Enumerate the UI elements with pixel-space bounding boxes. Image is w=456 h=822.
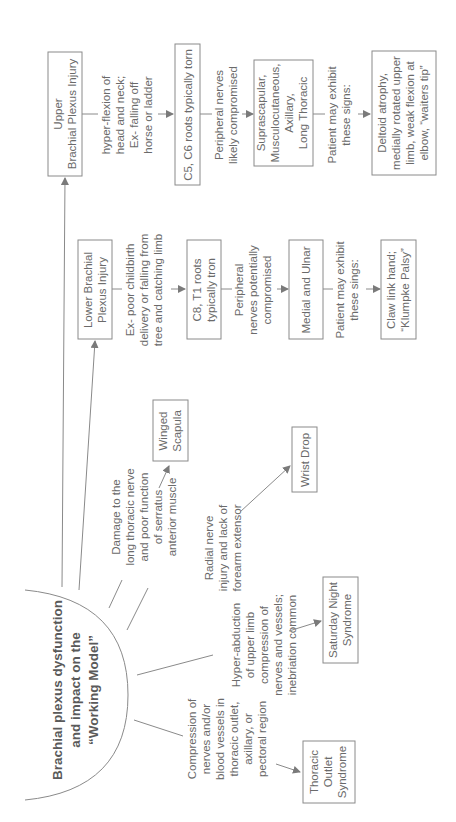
saturday-cause-line-3: compression of [258,605,270,684]
upper-signs-line-2: medially rotated upper [390,56,402,170]
winged-result-line-1: Winged [157,412,169,451]
saturday-night-branch: Hyper-abduction of upper limb compressio… [230,577,358,696]
winged-cause-line-4: of serratus [152,490,164,545]
winged-scapula-branch: Damage to the long thoracic nerve and po… [110,400,188,566]
connector-winged [109,580,122,608]
thoracic-cause-line-6: pectoral region [256,701,268,777]
winged-cause-line-5: anterior muscle [166,478,178,557]
thoracic-result-line-2: Outlet [322,756,334,787]
lower-nerves-label-line-3: compromised [261,255,273,324]
upper-nerves-label-line-2: likely compromised [227,66,239,164]
saturday-cause-line-5: inebriation common [286,595,298,695]
brachial-plexus-diagram: Brachial plexus dysfunction and impact o… [0,0,456,822]
winged-cause-line-1: Damage to the [110,479,122,554]
upper-signs-line-4: elbow, “waiters tip” [418,65,430,160]
thoracic-result-line-3: Syndrome [336,746,348,798]
central-node: Brachial plexus dysfunction and impact o… [25,590,128,800]
central-title-line-1: Brachial plexus dysfunction [50,600,65,780]
thoracic-outlet-branch: Compression of nerves and/or blood vesse… [186,698,355,803]
wrist-result: Wrist Drop [299,433,311,487]
lower-roots-line-1: C8, T1 roots [191,258,203,321]
winged-result-line-2: Scapula [171,410,183,452]
upper-nerves-line-4: Long Thoracic [297,76,309,149]
thoracic-cause-line-2: nerves and/or [200,704,212,774]
upper-nerves-line-3: Axillary, [283,93,295,132]
lower-nerves-label-line-2: nerves potentially [247,245,259,335]
connector-saturday [137,655,213,675]
wrist-arrow [240,466,290,512]
thoracic-arrow [276,764,300,772]
lower-title-line-2: Plexus Injury [96,257,108,323]
central-title-line-3: “Working Model” [86,635,101,745]
saturday-result-line-1: Saturday Night [327,581,339,658]
upper-nerves-line-2: Musculocutaneous, [269,63,281,162]
thoracic-result-line-1: Thoracic [308,750,320,794]
lower-nerves-label-line-1: Peripheral [233,264,245,316]
lower-signs-label-line-1: Patient may exhibit [334,241,346,339]
lower-nerves: Medial and Ulnar [300,246,312,333]
upper-cause-line-3: Ex- falling off [128,81,140,148]
upper-nerves-label-line-1: Peripheral nerves [213,70,225,160]
connector-wrist [127,588,148,630]
thoracic-cause-line-5: axillary, or [242,713,254,765]
connector-lower [79,341,95,590]
upper-signs-label-line-1: Patient may exhibit [326,66,338,164]
upper-nerves-line-1: Suprascapular, [255,75,267,152]
upper-signs-line-3: limb, weak flexion at [404,60,416,164]
wrist-cause-line-1: Radial nerve [203,516,215,581]
upper-title-line-2: Brachial Plexus Injury [66,58,78,169]
wrist-drop-branch: Radial nerve injury and lack of forearm … [203,427,317,591]
upper-cause-line-2: head and neck; [114,76,126,155]
saturday-cause-line-4: nerves and vessels; [272,594,284,696]
winged-cause-line-2: long thoracic nerve [124,468,136,565]
lower-signs-line-1: Claw link hand; [385,251,397,329]
lower-roots-line-2: typically tron [205,258,217,322]
lower-signs-label-line-2: these sings: [348,259,360,320]
connector-upper [62,178,65,587]
connector-thoracic [134,720,183,736]
wrist-cause-line-2: injury and lack of [217,504,229,591]
lower-cause-line-1: Ex- poor childbirth [124,244,136,337]
lower-cause-line-3: tree and catching limb [152,234,164,347]
thoracic-cause-line-3: blood vessels in [214,698,226,780]
upper-signs-label-line-2: these signs: [340,84,352,145]
thoracic-cause-line-1: Compression of [186,698,198,779]
winged-cause-line-3: and poor function [138,473,150,562]
upper-cause-line-1: hyper-flexion of [100,75,112,154]
upper-roots: C5, C6 roots typically torn [182,49,194,181]
lower-title-line-1: Lower Brachial [82,252,94,328]
upper-title-line-1: Upper [52,98,64,129]
lower-branch: Lower Brachial Plexus Injury Ex- poor ch… [78,234,416,347]
central-title-line-2: and impact on the [68,632,83,748]
wrist-cause-line-3: forearm extensor [231,504,243,591]
upper-cause-line-4: horse or ladder [142,76,154,154]
saturday-result-line-2: Syndrome [341,594,353,646]
lower-cause-line-2: delivery or falling from [138,234,150,346]
lower-signs-line-2: “Klumpke Palsy” [399,248,411,332]
saturday-cause-line-2: of upper limb [244,612,256,678]
upper-signs-line-1: Deltoid atrophy, [376,73,388,153]
saturday-cause-line-1: Hyper-abduction [230,603,242,687]
thoracic-cause-line-4: thoracic outlet, [228,702,240,777]
upper-branch: Upper Brachial Plexus Injury hyper-flexi… [48,44,436,185]
